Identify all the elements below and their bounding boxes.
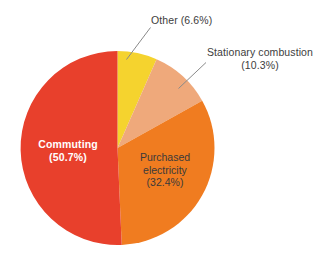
pie-label-commuting: Commuting (50.7%) (22, 138, 114, 164)
pie-label-purchased-electricity-line1: Purchased (124, 151, 206, 164)
pie-label-stationary-combustion-line2: (10.3%) (207, 59, 313, 72)
pie-label-commuting-line1: Commuting (22, 138, 114, 151)
pie-chart: Other (6.6%) Stationary combustion (10.3… (0, 0, 326, 256)
pie-label-purchased-electricity-line2: electricity (124, 164, 206, 177)
pie-label-stationary-combustion-line1: Stationary combustion (207, 46, 313, 58)
pie-label-other: Other (6.6%) (151, 14, 212, 27)
leader-line-stationary-combustion (179, 63, 207, 89)
pie-label-purchased-electricity: Purchased electricity (32.4%) (124, 151, 206, 189)
pie-label-stationary-combustion: Stationary combustion (10.3%) (207, 46, 313, 71)
pie-label-other-text: Other (6.6%) (151, 14, 212, 26)
pie-label-purchased-electricity-line3: (32.4%) (124, 176, 206, 189)
pie-label-commuting-line2: (50.7%) (22, 151, 114, 164)
pie-chart-canvas (0, 0, 326, 256)
